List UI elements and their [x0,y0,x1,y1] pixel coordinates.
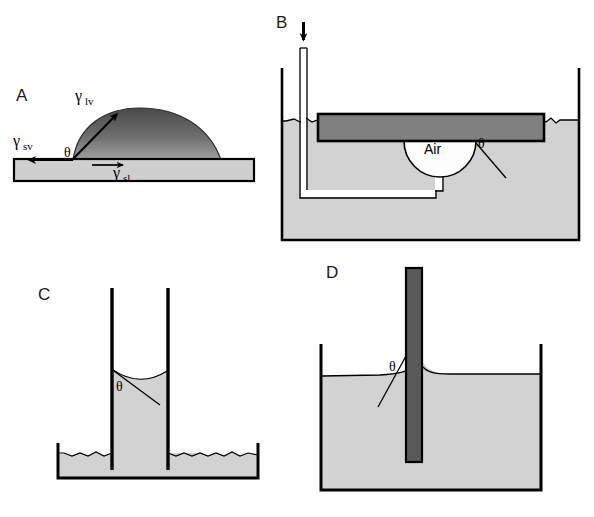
substrate-slab [14,159,254,181]
wilhelmy-plate [406,268,422,462]
contact-angle-figure: A γ lv γ sv γ sl θ B [0,0,594,517]
gamma-sl-subscript: sl [123,172,130,184]
panel-c-theta-label: θ [116,379,123,394]
panel-d-letter: D [326,263,338,282]
gamma-sl-label: γ [112,164,120,182]
panel-a-letter: A [16,86,28,105]
panel-a-theta-label: θ [64,145,71,160]
figure-canvas: A γ lv γ sv γ sl θ B [0,0,594,517]
panel-b-letter: B [276,13,287,32]
gamma-sv-label: γ [12,132,20,150]
panel-d-theta-label: θ [389,359,396,374]
gamma-lv-label: γ [74,87,82,105]
panel-b-theta-label: θ [478,136,485,151]
gamma-sv-subscript: sv [23,140,33,152]
test-plate-b [318,114,544,141]
gamma-lv-subscript: lv [85,95,94,107]
panel-c-letter: C [38,285,50,304]
air-label: Air [424,141,441,157]
